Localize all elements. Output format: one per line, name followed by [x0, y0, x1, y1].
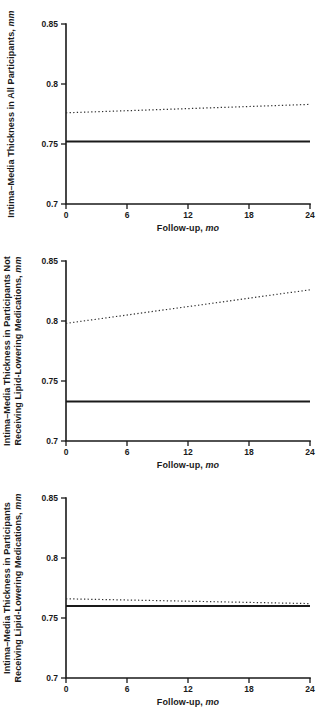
- svg-text:0.8: 0.8: [46, 316, 58, 326]
- svg-text:12: 12: [183, 447, 193, 457]
- svg-text:0.75: 0.75: [41, 376, 58, 386]
- svg-text:0.75: 0.75: [41, 139, 58, 149]
- svg-text:12: 12: [183, 210, 193, 220]
- svg-text:24: 24: [305, 210, 315, 220]
- svg-text:Receiving Lipid-Lowering Medic: Receiving Lipid-Lowering Medications, mm: [13, 256, 23, 445]
- svg-text:24: 24: [305, 447, 315, 457]
- chart-not-receiving-lipid-lowering: 0.70.750.80.8506121824Follow-up, moIntim…: [0, 237, 323, 474]
- svg-text:Intima–Media Thickness in Part: Intima–Media Thickness in Participants N…: [2, 256, 12, 446]
- svg-text:18: 18: [244, 684, 254, 694]
- svg-text:0: 0: [64, 447, 69, 457]
- svg-text:Receiving Lipid-Lowering Medic: Receiving Lipid-Lowering Medications, mm: [13, 493, 23, 682]
- svg-text:Follow-up, mo: Follow-up, mo: [157, 697, 220, 707]
- svg-text:6: 6: [125, 210, 130, 220]
- panel-not-receiving-lipid-lowering: 0.70.750.80.8506121824Follow-up, moIntim…: [0, 237, 323, 474]
- svg-text:0.85: 0.85: [41, 19, 58, 29]
- svg-text:0: 0: [64, 210, 69, 220]
- chart-all-participants: 0.70.750.80.8506121824Follow-up, moIntim…: [0, 0, 323, 237]
- svg-text:0.7: 0.7: [46, 199, 58, 209]
- svg-text:0.7: 0.7: [46, 673, 58, 683]
- panel-receiving-lipid-lowering: 0.70.750.80.8506121824Follow-up, moIntim…: [0, 474, 323, 711]
- svg-text:0: 0: [64, 684, 69, 694]
- panel-all-participants: 0.70.750.80.8506121824Follow-up, moIntim…: [0, 0, 323, 237]
- svg-text:0.85: 0.85: [41, 256, 58, 266]
- svg-text:0.8: 0.8: [46, 79, 58, 89]
- svg-text:6: 6: [125, 684, 130, 694]
- svg-text:0.8: 0.8: [46, 553, 58, 563]
- svg-text:12: 12: [183, 684, 193, 694]
- svg-text:18: 18: [244, 210, 254, 220]
- svg-text:0.7: 0.7: [46, 436, 58, 446]
- chart-receiving-lipid-lowering: 0.70.750.80.8506121824Follow-up, moIntim…: [0, 474, 323, 711]
- svg-text:6: 6: [125, 447, 130, 457]
- svg-text:Follow-up, mo: Follow-up, mo: [157, 223, 220, 233]
- svg-text:0.85: 0.85: [41, 493, 58, 503]
- svg-text:18: 18: [244, 447, 254, 457]
- svg-text:Intima–Media Thickness in Part: Intima–Media Thickness in Participants: [2, 502, 12, 674]
- imt-three-panel-figure: 0.70.750.80.8506121824Follow-up, moIntim…: [0, 0, 323, 711]
- svg-text:Intima–Media Thickness in All: Intima–Media Thickness in All Participan…: [6, 10, 16, 217]
- svg-text:0.75: 0.75: [41, 613, 58, 623]
- svg-text:Follow-up, mo: Follow-up, mo: [157, 460, 220, 470]
- svg-text:24: 24: [305, 684, 315, 694]
